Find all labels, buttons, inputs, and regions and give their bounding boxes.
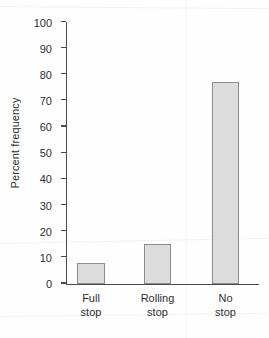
- y-axis-tick-label: 80: [40, 69, 52, 81]
- y-axis-tick-label: 10: [40, 252, 52, 264]
- category-label-line1: No: [186, 292, 266, 306]
- y-axis-title: Percent frequency: [4, 0, 26, 285]
- y-axis-tick: [61, 21, 66, 22]
- bar: [212, 82, 239, 283]
- y-axis-line: [66, 22, 67, 285]
- y-axis-tick: [61, 204, 66, 205]
- y-axis-tick-label: 70: [40, 95, 52, 107]
- x-axis-line: [66, 284, 259, 285]
- y-axis-tick: [61, 152, 66, 153]
- y-axis-tick: [61, 282, 66, 283]
- category-label-line2: stop: [186, 306, 266, 320]
- bar-chart-figure: Percent frequency 0102030405060708090100…: [0, 0, 269, 338]
- x-axis-category-label: Nostop: [186, 292, 266, 319]
- y-axis-tick-label: 0: [46, 278, 52, 290]
- bar: [144, 244, 171, 283]
- bar: [77, 263, 105, 284]
- y-axis-tick: [61, 73, 66, 74]
- y-axis-tick: [61, 256, 66, 257]
- y-axis-tick: [61, 178, 66, 179]
- scan-artifact-line: [0, 6, 269, 9]
- y-axis-tick-label: 90: [40, 43, 52, 55]
- y-axis-tick-label: 20: [40, 226, 52, 238]
- y-axis-tick: [61, 99, 66, 100]
- y-axis-tick-label: 100: [34, 17, 52, 29]
- y-axis-tick-label: 50: [40, 147, 52, 159]
- y-axis-tick: [61, 125, 66, 126]
- y-axis-tick-label: 60: [40, 121, 52, 133]
- y-axis-title-text: Percent frequency: [9, 97, 21, 188]
- y-axis-tick-label: 40: [40, 173, 52, 185]
- y-axis-tick: [61, 230, 66, 231]
- y-axis-tick: [61, 47, 66, 48]
- y-axis-tick-label: 30: [40, 200, 52, 212]
- plot-area: 0102030405060708090100: [66, 22, 259, 285]
